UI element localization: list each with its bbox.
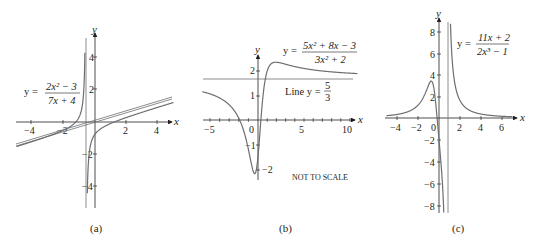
svg-text:5: 5 <box>325 80 330 91</box>
line-label-b: Line y = 5 3 <box>285 80 331 103</box>
x-tick-label: 5 <box>299 124 304 135</box>
svg-text:y =: y = <box>24 86 38 97</box>
x-axis-name: x <box>357 113 363 125</box>
caption-a: (a) <box>90 222 103 235</box>
y-tick-label: 2 <box>89 84 94 95</box>
y-axis-name: y <box>435 7 441 19</box>
equation-a: y = 2x² − 3 7x + 4 <box>24 81 80 106</box>
y-axis-name: y <box>91 23 97 35</box>
x-tick-label: −5 <box>204 124 215 135</box>
x-tick-label: 0 <box>249 124 254 135</box>
x-tick-label: 0 <box>431 122 436 133</box>
svg-text:y =: y = <box>457 38 471 49</box>
y-axis-name: y <box>254 43 260 55</box>
y-tick-label: 4 <box>430 70 435 81</box>
x-axis-name: x <box>173 115 179 127</box>
svg-text:2x³ − 1: 2x³ − 1 <box>477 46 508 57</box>
y-tick-label: −8 <box>424 201 435 212</box>
x-tick-label: 4 <box>154 125 159 136</box>
svg-text:11x + 2: 11x + 2 <box>478 32 511 43</box>
panel-b: x y −5 0 5 10 2 1 −1 −2 y = 5x² + 8x − 3… <box>202 40 363 235</box>
panel-a: x y −4 −2 2 4 4 2 −2 −4 y = 2x² − 3 <box>16 23 179 235</box>
svg-text:3: 3 <box>325 92 330 103</box>
x-tick-label: −4 <box>24 125 35 136</box>
x-tick-label: 6 <box>499 122 504 133</box>
svg-text:Line y =: Line y = <box>285 86 321 97</box>
not-to-scale-note: NOT TO SCALE <box>292 173 348 182</box>
curve-right-branch <box>87 102 173 193</box>
y-tick-label: −4 <box>424 157 435 168</box>
svg-text:5x² + 8x − 3: 5x² + 8x − 3 <box>303 40 356 51</box>
x-tick-label: 10 <box>342 124 352 135</box>
y-tick-label: −2 <box>262 164 273 175</box>
y-tick-label: −2 <box>424 135 435 146</box>
figure: x y −4 −2 2 4 4 2 −2 −4 y = 2x² − 3 <box>0 0 543 247</box>
y-tick-label: 8 <box>430 27 435 38</box>
y-tick-label: 4 <box>89 52 94 63</box>
y-tick-label: −2 <box>82 149 93 160</box>
y-tick-label: 1 <box>250 90 255 101</box>
svg-text:3x² + 2: 3x² + 2 <box>314 54 346 65</box>
x-axis-name: x <box>519 111 525 123</box>
panel-c: x y −4 −2 0 2 4 6 8 6 4 2 −2 −4 −6 −8 y … <box>385 7 525 235</box>
y-tick-label: 6 <box>430 49 435 60</box>
caption-c: (c) <box>452 222 465 235</box>
equation-c: y = 11x + 2 2x³ − 1 <box>457 32 511 57</box>
svg-text:2x² − 3: 2x² − 3 <box>46 81 77 92</box>
y-tick-label: −6 <box>424 179 435 190</box>
caption-b: (b) <box>279 222 292 235</box>
x-tick-label: 2 <box>457 122 462 133</box>
y-tick-label: 2 <box>250 65 255 76</box>
svg-text:7x + 4: 7x + 4 <box>48 95 76 106</box>
curve-left-branch <box>387 81 444 212</box>
svg-text:y =: y = <box>283 45 297 56</box>
x-tick-label: 4 <box>478 122 483 133</box>
x-tick-label: −2 <box>411 122 422 133</box>
x-tick-label: 2 <box>123 125 128 136</box>
equation-b: y = 5x² + 8x − 3 3x² + 2 <box>283 40 357 65</box>
x-tick-label: −4 <box>390 122 401 133</box>
